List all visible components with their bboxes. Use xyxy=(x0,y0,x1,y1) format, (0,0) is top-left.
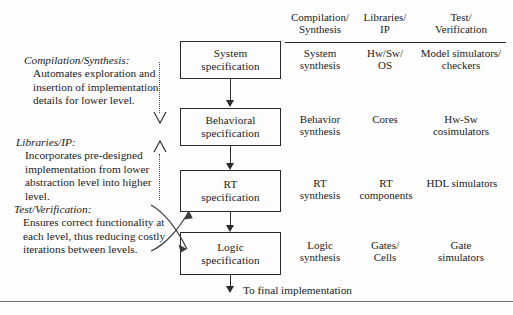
legend-entry-test-verification: Test/Verification: Ensures correct funct… xyxy=(14,203,166,257)
flow-box-line2: specification xyxy=(201,254,259,267)
column-header-test-verification: Test/ Verification xyxy=(415,11,507,36)
column-header-line1: Compilation/ xyxy=(291,11,349,23)
legend-term: Compilation/Synthesis: xyxy=(24,54,129,66)
flow-box-line1: RT xyxy=(224,178,238,191)
cell-line2: synthesis xyxy=(300,125,340,137)
flow-box-line2: specification xyxy=(201,60,259,73)
table-cell-logic-compilation: Logic synthesis xyxy=(285,239,355,264)
cell-line2: cosimulators xyxy=(433,125,489,137)
table-cell-logic-test: Gate simulators xyxy=(415,239,507,264)
cell-line1: Hw/Sw/ xyxy=(367,47,403,59)
cell-line2: simulators xyxy=(438,251,484,263)
flow-box-behavioral[interactable]: Behavioral specification xyxy=(180,108,281,146)
column-header-line1: Libraries/ xyxy=(364,11,407,23)
column-header-libraries-ip: Libraries/ IP xyxy=(357,11,413,36)
cell-line2: OS xyxy=(378,59,392,71)
cell-line1: Behavior xyxy=(300,113,340,125)
column-header-line1: Test/ xyxy=(450,11,471,23)
flow-arrow-final-head xyxy=(226,286,234,293)
cell-line1: RT xyxy=(379,177,392,189)
cell-line1: Logic xyxy=(307,239,333,251)
table-cell-logic-libraries: Gates/ Cells xyxy=(357,239,413,264)
table-cell-behavioral-libraries: Cores xyxy=(357,113,413,125)
header-separator-rule xyxy=(285,42,506,43)
flow-box-line2: specification xyxy=(201,127,259,140)
legend-body: Incorporates pre-designed implementation… xyxy=(16,149,176,203)
cell-line1: HDL simulators xyxy=(427,177,498,189)
cell-line1: Hw-Sw xyxy=(444,113,478,125)
dotted-arrow-down-head xyxy=(152,110,168,126)
cell-line1: Model simulators/ xyxy=(421,47,501,59)
cell-line1: RT xyxy=(313,177,326,189)
cell-line2: checkers xyxy=(442,59,480,71)
cell-line2: Cells xyxy=(374,251,397,263)
table-cell-system-test: Model simulators/ checkers xyxy=(412,47,510,72)
cell-line2: synthesis xyxy=(300,251,340,263)
table-cell-behavioral-compilation: Behavior synthesis xyxy=(285,113,355,138)
flow-box-line1: Logic xyxy=(217,241,244,254)
flow-arrow-system-to-behavioral-head xyxy=(226,100,234,107)
table-cell-system-libraries: Hw/Sw/ OS xyxy=(357,47,413,72)
flow-box-line1: System xyxy=(214,47,248,60)
cell-line2: synthesis xyxy=(300,189,340,201)
flow-arrow-rt-to-logic-head xyxy=(226,225,234,232)
table-cell-rt-libraries: RT components xyxy=(353,177,419,202)
cell-line2: components xyxy=(359,189,412,201)
column-header-line2: Verification xyxy=(435,23,487,35)
legend-body: Automates exploration and insertion of i… xyxy=(24,67,174,107)
legend-entry-libraries-ip: Libraries/IP: Incorporates pre-designed … xyxy=(16,136,176,203)
column-header-line2: Synthesis xyxy=(299,23,341,35)
flow-box-line2: specification xyxy=(201,191,259,204)
bottom-separator-rule xyxy=(0,301,513,302)
legend-term: Test/Verification: xyxy=(14,203,91,215)
flow-arrow-behavioral-to-rt-head xyxy=(226,163,234,170)
legend-body: Ensures correct functionality at each le… xyxy=(14,216,166,256)
diagram-canvas: Compilation/ Synthesis Libraries/ IP Tes… xyxy=(0,0,513,315)
table-cell-system-compilation: System synthesis xyxy=(285,47,355,72)
table-cell-rt-test: HDL simulators xyxy=(418,177,506,189)
flow-arrow-rt-to-logic-line xyxy=(230,212,231,226)
legend-entry-compilation-synthesis: Compilation/Synthesis: Automates explora… xyxy=(24,54,174,108)
cell-line1: Gate xyxy=(451,239,472,251)
legend-term: Libraries/IP: xyxy=(16,136,76,148)
flow-box-system[interactable]: System specification xyxy=(180,41,281,79)
table-cell-rt-compilation: RT synthesis xyxy=(285,177,355,202)
cell-line1: System xyxy=(304,47,336,59)
cell-line1: Cores xyxy=(372,113,398,125)
final-implementation-label: To final implementation xyxy=(243,284,352,296)
column-header-line2: IP xyxy=(380,23,390,35)
cell-line1: Gates/ xyxy=(371,239,399,251)
flow-box-line1: Behavioral xyxy=(205,114,255,127)
flow-arrow-system-to-behavioral-line xyxy=(230,79,231,102)
flow-arrow-behavioral-to-rt-line xyxy=(230,146,231,164)
cell-line2: synthesis xyxy=(300,59,340,71)
table-cell-behavioral-test: Hw-Sw cosimulators xyxy=(415,113,507,138)
column-header-compilation-synthesis: Compilation/ Synthesis xyxy=(285,11,355,36)
